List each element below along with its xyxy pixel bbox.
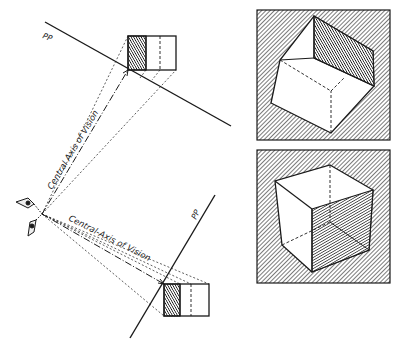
- box-upper: [128, 36, 176, 70]
- central-axis-label-lower: Central-Axis of Vision: [67, 213, 152, 263]
- upper-plan-view: PP Central Axis of Vision: [41, 22, 231, 214]
- perspective-diagram: PP Central Axis of Vision PP: [0, 0, 397, 357]
- box-lower: [164, 284, 209, 316]
- cube-panel-bottom: [257, 150, 390, 283]
- central-axis-lower: [42, 214, 164, 284]
- picture-plane-label-upper: PP: [41, 31, 53, 43]
- lower-plan-view: PP Central-Axis of Vision: [42, 195, 215, 338]
- sight-lines-upper: [42, 36, 176, 214]
- central-axis-upper: [42, 70, 128, 214]
- central-axis-label-upper: Central Axis of Vision: [45, 108, 100, 191]
- sight-lines-lower: [42, 214, 209, 316]
- eye-icon: [16, 198, 42, 236]
- cube-panel-top: [257, 10, 390, 140]
